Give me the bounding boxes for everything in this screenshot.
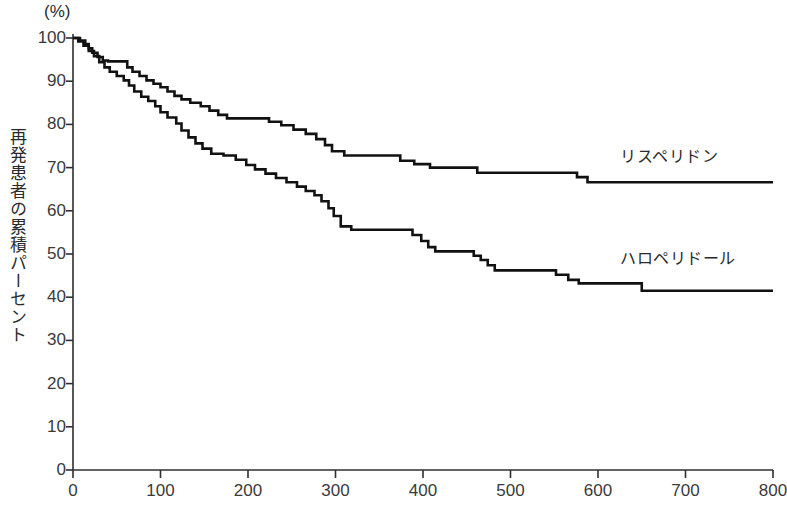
legend-label-risperidone: リスペリドン bbox=[620, 143, 718, 167]
x-axis-ticks bbox=[73, 470, 773, 478]
y-axis-ticks bbox=[66, 38, 73, 470]
legend-label-haloperidol: ハロペリドール bbox=[620, 245, 736, 269]
